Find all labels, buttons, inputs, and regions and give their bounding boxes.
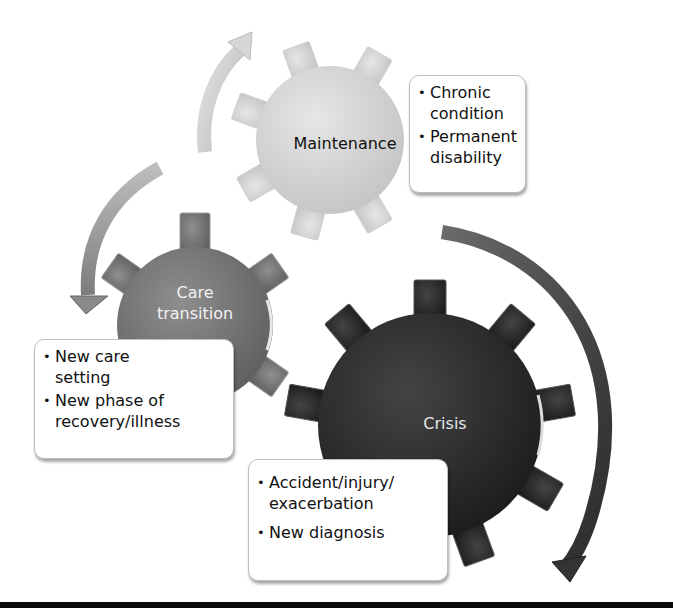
detail-item: Chronic condition <box>418 82 517 124</box>
maintenance-label-text: Maintenance <box>293 134 396 153</box>
detail-item: Permanent disability <box>418 126 517 168</box>
care-transition-label: Care transition <box>140 282 250 324</box>
detail-item: New phase of recovery/illness <box>43 390 205 432</box>
crisis-details-box: Accident/injury/ exacerbation New diagno… <box>248 459 448 581</box>
care-transition-label-line1: Care <box>140 282 250 303</box>
care-transition-details-list: New care setting New phase of recovery/i… <box>43 346 225 432</box>
care-transition-details-box: New care setting New phase of recovery/i… <box>34 339 234 459</box>
maintenance-label: Maintenance <box>280 133 410 154</box>
detail-item: Accident/injury/ exacerbation <box>257 472 419 514</box>
maintenance-details-box: Chronic condition Permanent disability <box>409 75 526 193</box>
crisis-details-list: Accident/injury/ exacerbation New diagno… <box>257 472 439 543</box>
care-transition-label-line2: transition <box>140 303 250 324</box>
arrow-to-maintenance-icon <box>204 32 252 152</box>
gear-cycle-diagram: Maintenance Care transition Crisis Chron… <box>0 0 673 616</box>
bottom-rule <box>0 602 673 608</box>
crisis-label: Crisis <box>405 413 485 434</box>
maintenance-details-list: Chronic condition Permanent disability <box>418 82 517 168</box>
detail-item: New care setting <box>43 346 175 388</box>
detail-item: New diagnosis <box>257 522 439 543</box>
crisis-label-text: Crisis <box>423 414 466 433</box>
